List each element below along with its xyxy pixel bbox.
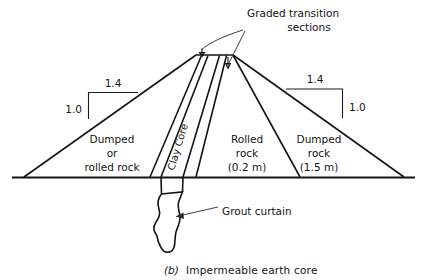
caption-text: Impermeable earth core bbox=[186, 264, 318, 276]
right-dimension-horizontal-label: 1.4 bbox=[307, 73, 324, 85]
left-zone-label-line2: or bbox=[107, 147, 118, 159]
left-dimension-vertical-label: 1.0 bbox=[65, 103, 82, 115]
middle-zone-label-line3: (0.2 m) bbox=[228, 161, 266, 173]
middle-zone-label-line1: Rolled bbox=[231, 133, 263, 145]
core-cutoff-left-wall bbox=[161, 177, 162, 194]
caption-tag: (b) bbox=[164, 264, 179, 276]
grout-curtain-shape bbox=[154, 192, 183, 252]
left-zone-label-line1: Dumped bbox=[90, 133, 135, 145]
right-dimension-vertical-label: 1.0 bbox=[349, 101, 366, 113]
right-zone-label-line1: Dumped bbox=[297, 133, 342, 145]
middle-zone-label-line2: rock bbox=[236, 147, 259, 159]
graded-transition-label-line1: Graded transition bbox=[247, 7, 339, 19]
figure-impermeable-earth-core: Graded transition sections 1.4 1.0 1.4 1… bbox=[0, 0, 427, 280]
right-zone-label-line3: (1.5 m) bbox=[300, 161, 338, 173]
right-zone-label-line2: rock bbox=[308, 147, 331, 159]
grout-curtain-label: Grout curtain bbox=[222, 205, 292, 217]
graded-transition-label-line2: sections bbox=[287, 21, 330, 33]
dam-cross-section-diagram: Graded transition sections 1.4 1.0 1.4 1… bbox=[0, 0, 427, 280]
left-dimension-horizontal-label: 1.4 bbox=[105, 77, 122, 89]
left-zone-label-line3: rolled rock bbox=[84, 161, 140, 173]
core-cutoff-right-wall bbox=[183, 177, 184, 192]
